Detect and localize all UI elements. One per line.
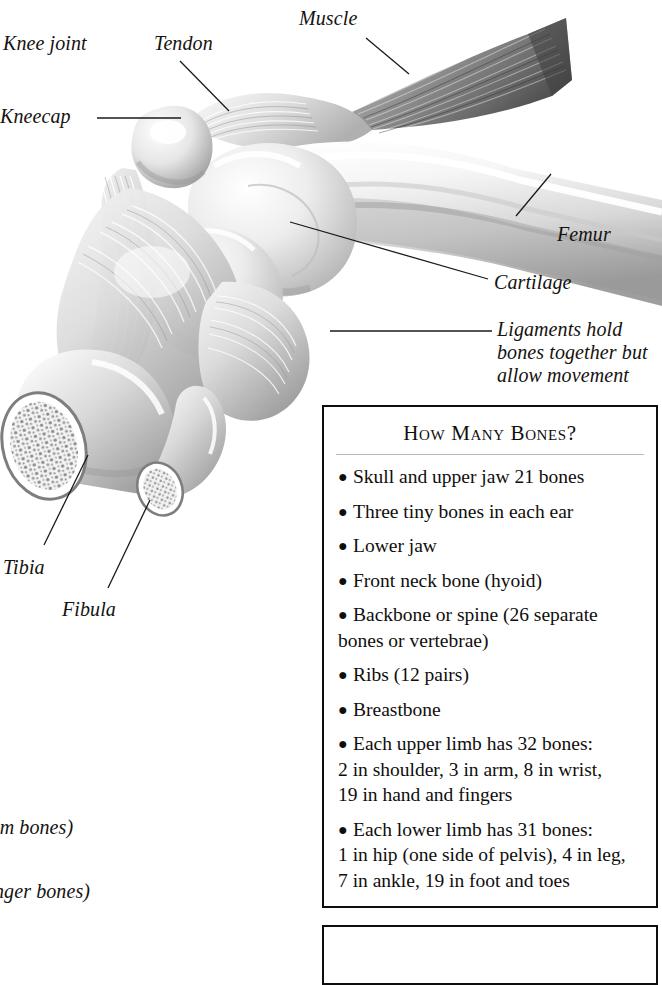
- how-many-bones-box: How Many Bones? ●Skull and upper jaw 21 …: [322, 405, 658, 908]
- title-divider: [336, 454, 644, 455]
- list-item: ●Front neck bone (hyoid): [338, 568, 646, 594]
- list-item: ●Lower jaw: [338, 533, 646, 559]
- label-fibula: Fibula: [62, 597, 116, 621]
- label-cartilage: Cartilage: [494, 270, 572, 294]
- joint-ligaments: [57, 188, 244, 432]
- list-item-line1: Lower jaw: [353, 535, 437, 556]
- list-item: ●Backbone or spine (26 separatebones or …: [338, 602, 646, 653]
- bullet-icon: ●: [338, 697, 348, 723]
- list-item-line1: Backbone or spine (26 separate: [353, 604, 598, 625]
- label-finger-bones: nger bones): [0, 879, 90, 903]
- bullet-icon: ●: [338, 568, 348, 594]
- list-item-line2: bones or vertebrae): [338, 628, 646, 654]
- bullet-icon: ●: [338, 499, 348, 525]
- femur-condyle: [188, 143, 357, 296]
- secondary-box-content: [324, 927, 656, 943]
- list-item-line1: Ribs (12 pairs): [353, 664, 469, 685]
- list-item-line1: Each lower limb has 31 bones:: [353, 819, 593, 840]
- list-item: ●Skull and upper jaw 21 bones: [338, 464, 646, 490]
- label-tibia: Tibia: [3, 555, 45, 579]
- list-item-line3: 7 in ankle, 19 in foot and toes: [338, 868, 646, 894]
- list-item-line1: Breastbone: [353, 699, 441, 720]
- bullet-icon: ●: [338, 602, 348, 628]
- label-femur: Femur: [557, 222, 611, 246]
- bullet-icon: ●: [338, 731, 348, 757]
- secondary-info-box: [322, 925, 658, 985]
- bullet-icon: ●: [338, 662, 348, 688]
- list-item: ●Ribs (12 pairs): [338, 662, 646, 688]
- list-item: ●Each upper limb has 32 bones: 2 in shou…: [338, 731, 646, 808]
- bullet-icon: ●: [338, 464, 348, 490]
- list-item-line1: Front neck bone (hyoid): [353, 570, 542, 591]
- lateral-ligament-fan: [198, 282, 309, 421]
- label-palm-bones: lm bones): [0, 815, 73, 839]
- list-item-line1: Each upper limb has 32 bones:: [353, 733, 593, 754]
- list-item-line2: 1 in hip (one side of pelvis), 4 in leg,: [338, 842, 646, 868]
- fibula-shape: [129, 386, 226, 523]
- list-item: ●Breastbone: [338, 697, 646, 723]
- tendon-shape: [186, 93, 372, 150]
- bone-count-list: ●Skull and upper jaw 21 bones ●Three tin…: [324, 464, 656, 893]
- list-item-line1: Skull and upper jaw 21 bones: [353, 466, 584, 487]
- label-ligaments: Ligaments hold bones together but allow …: [497, 318, 662, 387]
- bullet-icon: ●: [338, 533, 348, 559]
- label-muscle: Muscle: [299, 6, 357, 30]
- bullet-icon: ●: [338, 817, 348, 843]
- femur-condyle-posterior: [144, 226, 283, 360]
- kneecap-shape: [131, 106, 212, 188]
- list-item: ●Three tiny bones in each ear: [338, 499, 646, 525]
- label-tendon: Tendon: [154, 31, 213, 55]
- patellar-ligament: [84, 168, 157, 386]
- muscle-shape: [352, 18, 572, 134]
- list-item-line2: 2 in shoulder, 3 in arm, 8 in wrist,: [338, 757, 646, 783]
- label-knee-joint: Knee joint: [3, 31, 87, 55]
- label-kneecap: Kneecap: [0, 104, 71, 128]
- tibia-shape: [0, 349, 175, 509]
- list-item-line1: Three tiny bones in each ear: [353, 501, 573, 522]
- list-item: ●Each lower limb has 31 bones:1 in hip (…: [338, 817, 646, 894]
- how-many-bones-title: How Many Bones?: [340, 407, 640, 454]
- list-item-line3: 19 in hand and fingers: [338, 782, 646, 808]
